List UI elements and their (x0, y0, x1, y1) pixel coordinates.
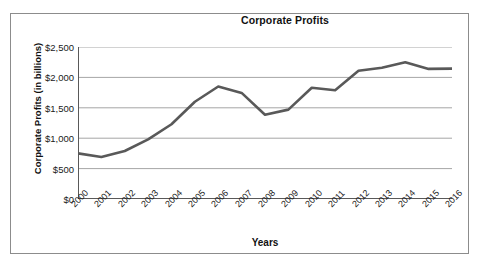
x-axis-tick-labels: 2000200120022003200420052006200720082009… (78, 202, 452, 236)
line-chart-svg (78, 47, 452, 199)
y-tick-label: $500 (28, 163, 74, 174)
y-tick-label: $2,500 (28, 42, 74, 53)
y-tick-label: $2,000 (28, 72, 74, 83)
plot-area (78, 47, 452, 199)
data-series-line (78, 62, 452, 157)
y-tick-label: $0 (28, 194, 74, 205)
chart-figure: Corporate Profits Corporate Profits (in … (0, 0, 481, 268)
x-axis-ticks (78, 47, 452, 199)
y-axis-tick-labels: $0$500$1,000$1,500$2,000$2,500 (26, 47, 74, 199)
chart-title: Corporate Profits (120, 14, 450, 26)
x-axis-title: Years (70, 237, 460, 248)
y-tick-label: $1,500 (28, 102, 74, 113)
y-tick-label: $1,000 (28, 133, 74, 144)
